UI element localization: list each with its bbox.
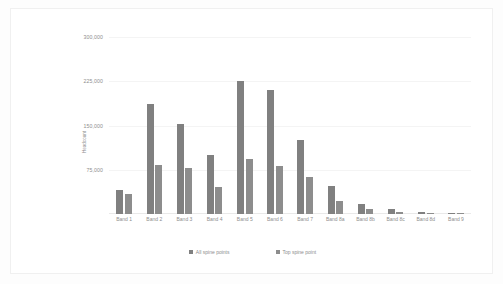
- bar-group: [411, 37, 441, 214]
- bar-group: [350, 37, 380, 214]
- legend-swatch-icon: [276, 250, 280, 254]
- legend-label: All spine points: [196, 249, 230, 255]
- x-tick-label: Band 8a: [320, 216, 350, 222]
- chart-page: Headcount 300,000 225,000 150,000 75,000…: [0, 0, 503, 284]
- bar-group: [230, 37, 260, 214]
- legend-label: Top spine point: [283, 249, 317, 255]
- bar-group: [260, 37, 290, 214]
- bar-group: [109, 37, 139, 214]
- bar[interactable]: [147, 104, 154, 214]
- bar-group: [320, 37, 350, 214]
- bar-group: [200, 37, 230, 214]
- bar[interactable]: [336, 201, 343, 214]
- bar[interactable]: [267, 90, 274, 214]
- bar[interactable]: [306, 177, 313, 214]
- bar[interactable]: [396, 212, 403, 214]
- x-tick-label: Band 8d: [411, 216, 441, 222]
- bar[interactable]: [215, 187, 222, 214]
- legend-swatch-icon: [189, 250, 193, 254]
- x-tick-label: Band 7: [290, 216, 320, 222]
- y-tick-label: 150,000: [84, 123, 103, 129]
- bar[interactable]: [457, 213, 464, 214]
- bar-group: [169, 37, 199, 214]
- bar-group: [290, 37, 320, 214]
- bar[interactable]: [116, 190, 123, 214]
- bar[interactable]: [388, 209, 395, 214]
- y-tick-label: 75,000: [87, 167, 103, 173]
- bar[interactable]: [177, 124, 184, 214]
- bar[interactable]: [427, 213, 434, 214]
- bar-group: [139, 37, 169, 214]
- plot-area: 300,000 225,000 150,000 75,000: [109, 37, 471, 214]
- y-tick-label: 225,000: [84, 78, 103, 84]
- bar-group: [441, 37, 471, 214]
- x-axis-labels: Band 1Band 2Band 3Band 4Band 5Band 6Band…: [109, 216, 471, 222]
- chart-legend: All spine pointsTop spine point: [11, 249, 494, 255]
- x-tick-label: Band 6: [260, 216, 290, 222]
- legend-item[interactable]: Top spine point: [276, 249, 317, 255]
- x-tick-label: Band 2: [139, 216, 169, 222]
- x-tick-label: Band 5: [230, 216, 260, 222]
- legend-item[interactable]: All spine points: [189, 249, 230, 255]
- y-axis-title: Headcount: [82, 131, 87, 153]
- y-tick-label: 300,000: [84, 34, 103, 40]
- bar[interactable]: [155, 165, 162, 214]
- bar[interactable]: [246, 159, 253, 214]
- x-tick-label: Band 4: [200, 216, 230, 222]
- bar[interactable]: [366, 209, 373, 214]
- bar[interactable]: [448, 213, 455, 214]
- bar[interactable]: [207, 155, 214, 214]
- bar[interactable]: [358, 204, 365, 214]
- x-tick-label: Band 8b: [350, 216, 380, 222]
- bar[interactable]: [125, 194, 132, 214]
- bar[interactable]: [237, 81, 244, 214]
- bar[interactable]: [418, 212, 425, 214]
- chart-card: Headcount 300,000 225,000 150,000 75,000…: [10, 8, 493, 274]
- bar[interactable]: [276, 166, 283, 214]
- bar[interactable]: [185, 168, 192, 214]
- bar-groups: [109, 37, 471, 214]
- x-tick-label: Band 9: [441, 216, 471, 222]
- bar[interactable]: [297, 140, 304, 214]
- bar-chart: Headcount 300,000 225,000 150,000 75,000…: [11, 9, 494, 275]
- x-tick-label: Band 8c: [381, 216, 411, 222]
- x-tick-label: Band 3: [169, 216, 199, 222]
- x-tick-label: Band 1: [109, 216, 139, 222]
- bar[interactable]: [328, 186, 335, 214]
- bar-group: [381, 37, 411, 214]
